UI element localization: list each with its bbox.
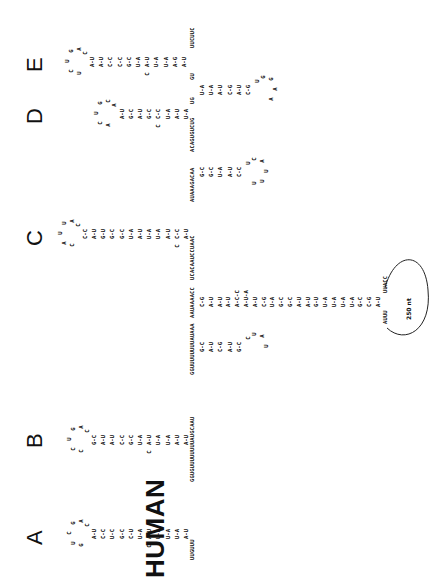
loop-nucleotide: G	[77, 543, 83, 546]
loop-nucleotide: G	[69, 427, 75, 430]
loop-nucleotide: G	[69, 521, 75, 524]
base-pair: G-C	[92, 435, 98, 445]
bulge-nucleotide: C	[146, 544, 152, 547]
loop-nucleotide: C	[65, 531, 71, 534]
base-pair: U-A	[166, 529, 172, 539]
base-pair: G-C	[237, 342, 243, 352]
base-pair: C-C	[101, 529, 107, 539]
base-pair: G-C	[120, 529, 126, 539]
base-pair: U-A	[138, 529, 144, 539]
loop-length-note: 250 nt	[406, 298, 412, 320]
base-pair: G-C	[200, 342, 206, 352]
base-pair: U-A	[175, 529, 181, 539]
base-pair: A-U	[110, 435, 116, 445]
loop-nucleotide: U	[69, 541, 75, 544]
base-pair: A-U	[184, 529, 190, 539]
base-pair: A-U	[209, 342, 215, 352]
base-pair: U-A	[156, 529, 162, 539]
base-pair: U-A	[156, 435, 162, 445]
base-pair: G-C	[129, 435, 135, 445]
loop-nucleotide: U	[263, 344, 269, 347]
loop-nucleotide: C	[83, 429, 89, 432]
base-pair: A-U	[101, 435, 107, 445]
loop-nucleotide: A	[77, 425, 83, 428]
loop-nucleotide: U	[251, 332, 257, 335]
loop-nucleotide: A	[259, 334, 265, 337]
base-pair: A-U	[147, 529, 153, 539]
base-pair: C-U	[129, 529, 135, 539]
loop-nucleotide: A	[77, 519, 83, 522]
loop-nucleotide: C	[77, 449, 83, 452]
base-pair: U-A	[166, 435, 172, 445]
long-loop-ellipse	[0, 0, 438, 582]
loop-nucleotide: C	[69, 447, 75, 450]
base-pair: A-U	[147, 435, 153, 445]
a-five-prime-linker: UUGUUU	[190, 539, 195, 560]
a-three-prime-linker: GGUGUUUUUUUUAUGCAAU	[190, 417, 195, 482]
bulge-nucleotide: C	[146, 450, 152, 453]
base-pair: C-G	[218, 342, 224, 352]
base-pair: A-U	[228, 342, 234, 352]
base-pair: U-C	[110, 529, 116, 539]
loop-nucleotide: C	[83, 523, 89, 526]
b-linker-1: GGUUUUUUUUAUAAA	[190, 323, 195, 375]
loop-nucleotide: U	[65, 437, 71, 440]
loop-nucleotide: C	[245, 336, 251, 339]
base-pair: U-A	[138, 435, 144, 445]
base-pair: A-U	[175, 435, 181, 445]
base-pair: C-C	[120, 435, 126, 445]
base-pair: A-U	[92, 529, 98, 539]
